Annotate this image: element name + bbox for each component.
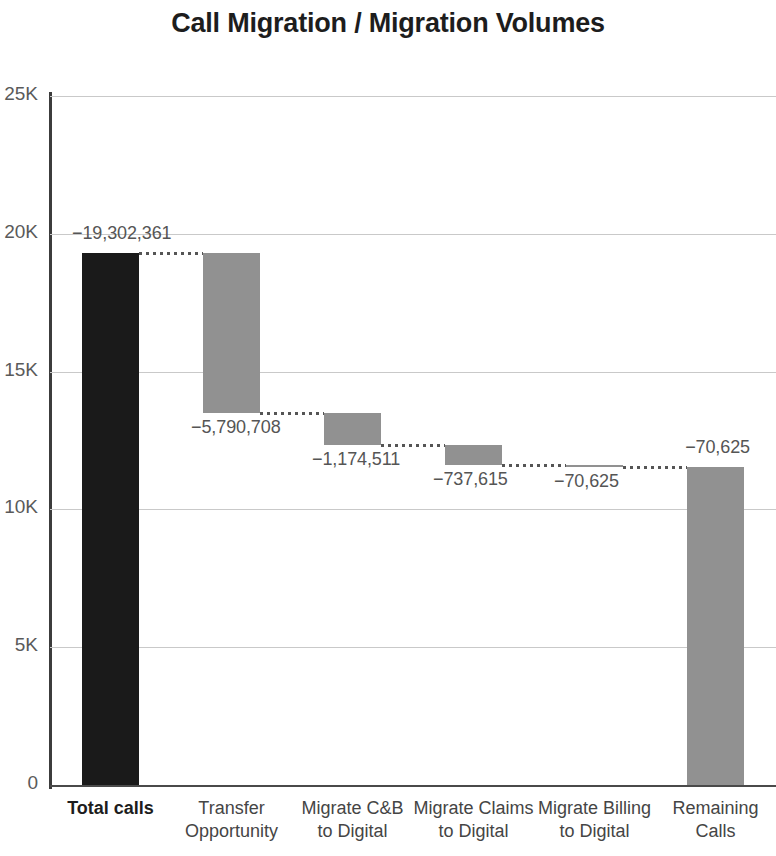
bar-transfer-opportunity[interactable] bbox=[203, 253, 260, 413]
category-label-migrate-c-b-to-digital: Migrate C&B to Digital bbox=[292, 797, 413, 843]
gridline-0 bbox=[50, 785, 776, 787]
y-axis-tick-label: 0 bbox=[0, 772, 38, 794]
chart-title: Call Migration / Migration Volumes bbox=[0, 8, 776, 39]
connector-line bbox=[623, 466, 687, 469]
gridline-10K bbox=[50, 509, 776, 510]
value-label: −70,625 bbox=[0, 437, 750, 458]
category-label-total-calls: Total calls bbox=[50, 797, 171, 820]
category-label-migrate-billing-to-digital: Migrate Billing to Digital bbox=[534, 797, 655, 843]
bar-remaining-calls[interactable] bbox=[687, 467, 744, 785]
bar-total-calls[interactable] bbox=[82, 253, 139, 785]
value-label: −5,790,708 bbox=[191, 417, 281, 438]
category-label-migrate-claims-to-digital: Migrate Claims to Digital bbox=[413, 797, 534, 843]
waterfall-chart: Call Migration / Migration Volumes 05K10… bbox=[0, 0, 776, 856]
value-label: −70,625 bbox=[554, 471, 619, 492]
y-axis-tick-label: 15K bbox=[0, 359, 38, 381]
gridline-15K bbox=[50, 372, 776, 373]
category-label-transfer-opportunity: Transfer Opportunity bbox=[171, 797, 292, 843]
y-axis-tick-label: 25K bbox=[0, 83, 38, 105]
gridline-5K bbox=[50, 647, 776, 648]
connector-line bbox=[139, 252, 203, 255]
value-label: −19,302,361 bbox=[72, 223, 172, 244]
y-axis-tick-label: 5K bbox=[0, 634, 38, 656]
connector-line bbox=[502, 464, 566, 467]
category-label-remaining-calls: Remaining Calls bbox=[655, 797, 776, 843]
connector-line bbox=[260, 412, 324, 415]
value-label: −737,615 bbox=[433, 469, 508, 490]
gridline-25K bbox=[50, 96, 776, 97]
y-axis-tick-label: 10K bbox=[0, 496, 38, 518]
y-axis-tick-label: 20K bbox=[0, 221, 38, 243]
bar-migrate-billing-to-digital[interactable] bbox=[566, 465, 623, 467]
